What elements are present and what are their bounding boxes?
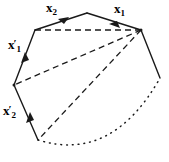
label-x2-subscript: 2 xyxy=(53,7,58,17)
dashed-chords xyxy=(14,30,141,140)
dotted-arc-group xyxy=(38,78,160,145)
vertex-dot-upper-right xyxy=(140,29,143,32)
chord-upper-right-to-bottom-left xyxy=(38,30,141,140)
polygon-diagram xyxy=(0,0,169,162)
arrow-x2-head xyxy=(58,17,69,24)
arrow-x1-prime-head xyxy=(21,52,29,63)
figure-canvas: x2 x1 x′1 x′2 xyxy=(0,0,169,162)
label-x2: x2 xyxy=(46,1,57,17)
label-x2-prime-subscript: 2 xyxy=(12,110,17,120)
label-x2-prime: x′2 xyxy=(3,104,16,120)
edge-bottom-left-to-left xyxy=(14,85,38,140)
label-x1-prime-subscript: 1 xyxy=(17,44,22,54)
direction-arrowheads xyxy=(21,17,120,123)
label-x1-prime: x′1 xyxy=(8,38,21,54)
arrow-x1-head xyxy=(109,21,120,28)
label-x1: x1 xyxy=(114,2,125,18)
edge-upper-right-to-right xyxy=(141,30,160,78)
vertex-dot-left xyxy=(13,84,16,87)
solid-polygon-edges xyxy=(14,13,160,140)
chord-upper-right-to-left xyxy=(14,30,141,85)
arc-bottom-right xyxy=(38,78,160,145)
label-x1-subscript: 1 xyxy=(121,8,126,18)
